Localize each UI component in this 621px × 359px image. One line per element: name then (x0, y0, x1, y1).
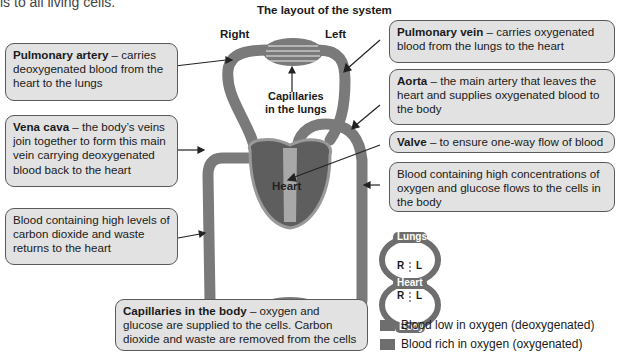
callout-pulmonary-vein: Pulmonary vein – carries oxygenated bloo… (389, 20, 615, 63)
label-right: Right (220, 28, 249, 40)
callout-pulmonary-artery: Pulmonary artery – carries deoxygenated … (5, 43, 178, 101)
mini-label-lungs: Lungs (397, 231, 427, 242)
mini-label-r-top: R (397, 260, 404, 271)
label-capillaries-lungs: Capillaries in the lungs (265, 90, 327, 116)
callout-co2-return: Blood containing high levels of carbon d… (5, 208, 178, 265)
mini-label-heart: Heart (397, 277, 423, 288)
legend-oxygenated: Blood rich in oxygen (oxygenated) (380, 337, 582, 351)
callout-capillaries-body: Capillaries in the body – oxygen and glu… (115, 299, 368, 351)
mini-label-l-bottom: L (416, 290, 422, 301)
legend-deoxygenated: Blood low in oxygen (deoxygenated) (380, 318, 594, 332)
mini-label-r-bottom: R (397, 290, 404, 301)
callout-vena-cava: Vena cava – the body’s veins join togeth… (5, 115, 178, 187)
callout-aorta: Aorta – the main artery that leaves the … (389, 69, 615, 125)
lung-capillaries (263, 38, 323, 66)
legend-swatch-oxygenated (380, 339, 395, 350)
callout-valve: Valve – to ensure one-way flow of blood (389, 131, 615, 153)
label-capillaries-lungs-1: Capillaries (265, 90, 327, 103)
label-left: Left (325, 28, 346, 40)
label-heart: Heart (272, 180, 301, 192)
callout-oxygen-flow: Blood containing high concentrations of … (389, 162, 615, 212)
vena-cava-vessel (208, 158, 258, 312)
mini-lung-loop (382, 238, 438, 282)
label-capillaries-lungs-2: in the lungs (265, 103, 327, 116)
legend-swatch-deoxygenated (380, 320, 395, 331)
mini-label-l-top: L (416, 260, 422, 271)
